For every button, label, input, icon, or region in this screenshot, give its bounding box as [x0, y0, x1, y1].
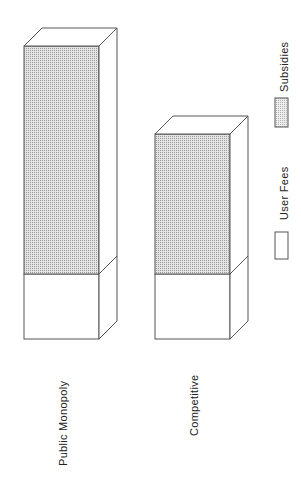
bar-side-face: [230, 116, 248, 274]
segment-user-fees: [155, 274, 230, 339]
legend-swatch-user-fees: [275, 232, 288, 259]
segment-user-fees: [24, 274, 99, 339]
bar-competitive: [155, 116, 248, 339]
bar-public-monopoly: [24, 28, 117, 339]
legend-label-subsidies: Subsidies: [278, 42, 290, 92]
bar-side-face: [99, 28, 117, 274]
segment-subsidies: [24, 46, 99, 274]
legend-swatch-subsidies: [275, 98, 288, 127]
segment-subsidies: [155, 134, 230, 274]
category-label-competitive: Competitive: [188, 375, 200, 436]
category-label-public-monopoly: Public Monopoly: [57, 381, 69, 466]
legend-label-user-fees: User Fees: [278, 167, 290, 220]
stacked-bar-chart: [0, 0, 301, 487]
